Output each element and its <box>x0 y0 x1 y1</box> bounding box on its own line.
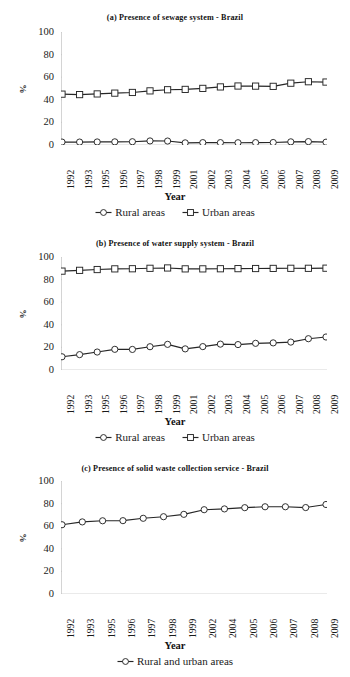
chart-b-plot-area <box>61 257 327 370</box>
chart-c-x-tick-1998: 1998 <box>168 619 178 638</box>
chart-c-x-tick-1997: 1997 <box>147 619 157 638</box>
chart-c-x-tick-1993: 1993 <box>86 619 96 638</box>
chart-a-x-tick-1992: 1992 <box>66 170 76 189</box>
chart-a-legend-label-0: Rural areas <box>115 206 165 218</box>
chart-b-y-tick-0: 0 <box>24 365 54 376</box>
chart-b-y-tick-40: 40 <box>24 320 54 331</box>
chart-b-x-tick-2004: 2004 <box>242 395 252 414</box>
chart-a-x-ticks: 1992199319951996199719981999200120022003… <box>61 148 327 192</box>
chart-a-x-tick-2005: 2005 <box>260 170 270 189</box>
chart-b-legend-label-1: Urban areas <box>202 431 255 443</box>
chart-a-canvas <box>61 32 327 145</box>
chart-a-x-tick-2008: 2008 <box>312 170 322 189</box>
circle-marker-icon <box>95 207 112 218</box>
chart-b-x-tick-2007: 2007 <box>295 395 305 414</box>
chart-b-x-ticks: 1992199319951996199719981999200120022003… <box>61 373 327 417</box>
chart-a-x-tick-2003: 2003 <box>224 170 234 189</box>
chart-b-x-tick-2002: 2002 <box>207 395 217 414</box>
chart-c-x-tick-2009: 2009 <box>330 619 340 638</box>
chart-a-legend-item-1: Urban areas <box>182 206 255 218</box>
circle-marker-icon <box>95 432 112 443</box>
chart-a-plot-area <box>61 32 327 145</box>
chart-a-y-tick-80: 80 <box>24 50 54 61</box>
chart-b-series-0 <box>61 334 327 360</box>
chart-b-legend-item-0: Rural areas <box>95 431 165 443</box>
chart-c-title: (c) Presence of solid waste collection s… <box>0 464 350 473</box>
chart-a-x-tick-2002: 2002 <box>207 170 217 189</box>
chart-c-legend-item-0: Rural and urban areas <box>117 655 233 667</box>
chart-a-title: (a) Presence of sewage system - Brazil <box>0 13 350 22</box>
chart-b-legend-label-0: Rural areas <box>115 431 165 443</box>
chart-c-x-tick-2006: 2006 <box>269 619 279 638</box>
chart-a-legend-item-0: Rural areas <box>95 206 165 218</box>
chart-b-x-tick-2008: 2008 <box>312 395 322 414</box>
square-marker-icon <box>182 432 199 443</box>
chart-c-canvas <box>61 481 327 594</box>
circle-marker-icon <box>117 656 134 667</box>
chart-a-x-tick-1996: 1996 <box>119 170 129 189</box>
chart-c-x-tick-2002: 2002 <box>208 619 218 638</box>
chart-a-y-tick-60: 60 <box>24 72 54 83</box>
chart-a-x-tick-2004: 2004 <box>242 170 252 189</box>
chart-b-y-tick-100: 100 <box>24 252 54 263</box>
chart-panel-b: (b) Presence of water supply system - Br… <box>0 227 350 453</box>
chart-b-x-tick-1996: 1996 <box>119 395 129 414</box>
chart-c-y-tick-20: 20 <box>24 566 54 577</box>
chart-c-x-tick-2005: 2005 <box>249 619 259 638</box>
chart-b-x-tick-2001: 2001 <box>189 395 199 414</box>
chart-a-x-tick-2006: 2006 <box>277 170 287 189</box>
chart-b-y-tick-20: 20 <box>24 342 54 353</box>
chart-a-series-0 <box>61 138 327 145</box>
chart-b-x-tick-1997: 1997 <box>136 395 146 414</box>
chart-c-legend: Rural and urban areas <box>0 655 350 667</box>
chart-a-x-tick-1998: 1998 <box>154 170 164 189</box>
chart-b-x-tick-2009: 2009 <box>330 395 340 414</box>
chart-b-canvas <box>61 257 327 370</box>
chart-b-x-axis-title: Year <box>0 416 350 427</box>
chart-b-title: (b) Presence of water supply system - Br… <box>0 239 350 248</box>
chart-c-x-ticks: 1992199319951996199719981999200220042005… <box>61 597 327 641</box>
square-marker-icon <box>182 207 199 218</box>
chart-b-x-tick-2005: 2005 <box>260 395 270 414</box>
figure-three-line-charts: (a) Presence of sewage system - Brazil %… <box>0 0 350 677</box>
chart-c-y-tick-40: 40 <box>24 544 54 555</box>
chart-b-x-tick-1998: 1998 <box>154 395 164 414</box>
chart-c-series-0 <box>61 501 327 527</box>
chart-c-x-axis-title: Year <box>0 640 350 651</box>
chart-a-x-tick-1997: 1997 <box>136 170 146 189</box>
chart-b-x-tick-1999: 1999 <box>172 395 182 414</box>
chart-c-x-tick-2008: 2008 <box>310 619 320 638</box>
chart-a-x-tick-1995: 1995 <box>101 170 111 189</box>
chart-a-y-tick-40: 40 <box>24 95 54 106</box>
chart-a-legend-label-1: Urban areas <box>202 206 255 218</box>
chart-a-series-1 <box>61 79 327 98</box>
chart-a-x-tick-2001: 2001 <box>189 170 199 189</box>
chart-c-x-tick-1999: 1999 <box>188 619 198 638</box>
chart-c-legend-label-0: Rural and urban areas <box>137 655 233 667</box>
chart-a-legend: Rural areasUrban areas <box>0 206 350 218</box>
chart-a-y-tick-100: 100 <box>24 27 54 38</box>
chart-a-y-tick-0: 0 <box>24 140 54 151</box>
chart-panel-c: (c) Presence of solid waste collection s… <box>0 453 350 677</box>
chart-c-y-tick-0: 0 <box>24 589 54 600</box>
chart-c-plot-area <box>61 481 327 594</box>
chart-b-x-tick-1992: 1992 <box>66 395 76 414</box>
chart-c-y-tick-100: 100 <box>24 476 54 487</box>
chart-c-y-tick-80: 80 <box>24 499 54 510</box>
chart-a-y-tick-20: 20 <box>24 117 54 128</box>
chart-c-x-tick-1992: 1992 <box>66 619 76 638</box>
chart-b-legend-item-1: Urban areas <box>182 431 255 443</box>
chart-panel-a: (a) Presence of sewage system - Brazil %… <box>0 0 350 227</box>
chart-b-x-tick-2003: 2003 <box>224 395 234 414</box>
chart-b-x-tick-1993: 1993 <box>84 395 94 414</box>
chart-b-x-tick-1995: 1995 <box>101 395 111 414</box>
chart-b-x-tick-2006: 2006 <box>277 395 287 414</box>
chart-b-y-tick-60: 60 <box>24 297 54 308</box>
chart-b-series-1 <box>61 265 327 274</box>
chart-c-x-tick-2004: 2004 <box>228 619 238 638</box>
chart-c-x-tick-1996: 1996 <box>127 619 137 638</box>
chart-c-x-tick-2007: 2007 <box>289 619 299 638</box>
chart-a-x-tick-1993: 1993 <box>84 170 94 189</box>
chart-b-legend: Rural areasUrban areas <box>0 431 350 443</box>
chart-a-x-axis-title: Year <box>0 191 350 202</box>
